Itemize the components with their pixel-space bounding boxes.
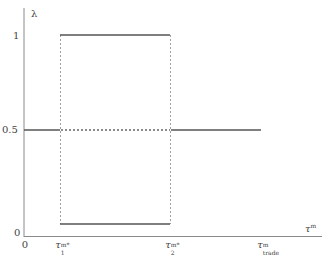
y-tick-1: 1	[13, 31, 19, 41]
y-tick-0: 0	[14, 228, 20, 238]
x-tick-tau-trade: τmtrade	[257, 240, 279, 250]
x-axis-label: τm	[305, 224, 316, 234]
tau2-base: τ	[165, 239, 171, 250]
y-axis-label: λ	[31, 9, 37, 19]
tau1-base: τ	[55, 239, 61, 250]
x-tick-tau2-star: τm*2	[165, 240, 181, 250]
x-tick-tau1-star: τm*1	[55, 240, 71, 250]
trade-base: τ	[257, 239, 263, 250]
y-tick-0-5: 0.5	[2, 125, 18, 135]
x-tick-0: 0	[22, 240, 28, 250]
x-axis-sup: m	[311, 222, 317, 229]
chart-canvas	[0, 0, 325, 256]
